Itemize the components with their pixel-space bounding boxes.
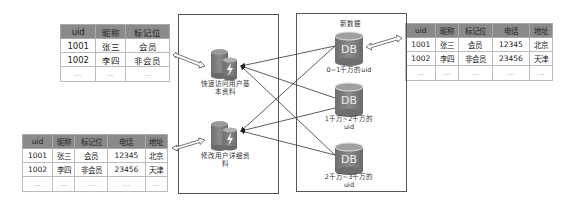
cache-top-label: 快速访问用户基本资料	[200, 80, 250, 96]
db-icon-text-2: DB	[335, 94, 363, 108]
db-icon-text-1: DB	[335, 43, 363, 57]
db-group-title: 新数据	[320, 20, 380, 28]
cache-server-icon-top	[211, 49, 237, 81]
double-arrow-bottom-left	[172, 138, 205, 151]
db3-label: 2千万~3千万的uid	[322, 173, 376, 189]
cache-bottom-label: 修改用户详细资料	[200, 152, 250, 168]
double-arrow-right	[366, 35, 402, 50]
db1-label: 0~1千万的uid	[316, 66, 382, 74]
double-arrow-top-left	[173, 52, 205, 68]
diagram-graphics	[0, 0, 576, 203]
connector-lines	[241, 46, 335, 155]
db2-label: 1千万~2千万的uid	[322, 115, 376, 131]
cache-server-icon-bottom	[211, 121, 237, 151]
db-icon-text-3: DB	[335, 153, 363, 167]
